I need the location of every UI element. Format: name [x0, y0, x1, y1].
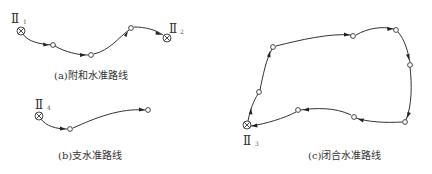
benchmark-label-II2: Ⅱ	[169, 22, 177, 36]
caption-c: (c)闭合水准路线	[308, 149, 381, 161]
leveling-routes-diagram: Ⅱ 1 Ⅱ 2 (a)附和水准路线 Ⅱ 4	[0, 0, 432, 174]
turning-point-icon	[352, 115, 357, 120]
route-segment	[406, 67, 411, 120]
benchmark-subscript-2: 2	[180, 28, 184, 35]
turning-point-icon	[296, 108, 301, 113]
route-segment	[73, 110, 145, 128]
arrowhead-icon	[406, 54, 410, 60]
arrowhead-icon	[80, 53, 86, 57]
route-segment	[41, 119, 67, 129]
turning-point-icon	[351, 34, 356, 39]
turning-point-icon	[271, 45, 276, 50]
benchmark-icon	[35, 112, 43, 120]
benchmark-icon	[243, 121, 251, 129]
turning-point-icon	[89, 53, 94, 58]
caption-a: (a)附和水准路线	[54, 69, 128, 81]
arrowhead-icon	[407, 112, 411, 118]
benchmark-icon	[17, 27, 25, 35]
panel-a-annexed-route: Ⅱ 1 Ⅱ 2 (a)附和水准路线	[11, 12, 184, 81]
route-segment	[55, 46, 88, 55]
benchmark-subscript-4: 4	[47, 104, 51, 111]
turning-point-icon	[146, 108, 151, 113]
arrowhead-icon	[267, 51, 271, 58]
arrowhead-icon	[249, 108, 253, 115]
benchmark-subscript-1: 1	[23, 18, 27, 25]
benchmark-label-II1: Ⅱ	[11, 12, 19, 26]
benchmark-label-II4: Ⅱ	[35, 98, 43, 112]
benchmark-label-II3: Ⅱ	[243, 134, 251, 148]
turning-point-icon	[257, 90, 262, 95]
turning-point-icon	[68, 127, 73, 132]
turning-point-icon	[394, 28, 399, 33]
turning-point-icon	[51, 43, 56, 48]
route-segment	[276, 35, 351, 46]
turning-point-icon	[408, 63, 413, 68]
turning-point-icon	[129, 26, 134, 31]
arrowhead-icon	[358, 119, 364, 123]
route-segment	[251, 112, 296, 126]
route-segment	[94, 30, 129, 54]
arrowhead-icon	[156, 31, 163, 35]
route-segment	[23, 34, 52, 45]
caption-b: (b)支水准路线	[58, 149, 122, 161]
route-segment	[248, 94, 258, 121]
benchmark-subscript-3: 3	[255, 140, 259, 147]
turning-point-icon	[403, 120, 408, 125]
panel-c-closed-route: Ⅱ 3 (c)闭合水准路线	[243, 27, 412, 161]
arrowhead-icon	[387, 27, 393, 31]
panel-b-spur-route: Ⅱ 4 (b)支水准路线	[35, 98, 150, 161]
